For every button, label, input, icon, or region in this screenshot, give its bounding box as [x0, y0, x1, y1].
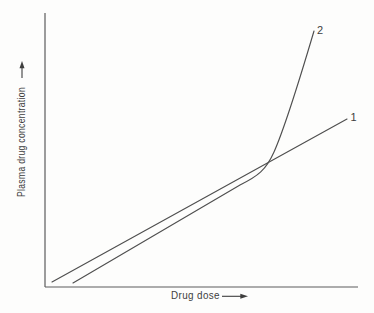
- series-1-line: [52, 119, 347, 282]
- series-2-label: 2: [317, 24, 323, 36]
- x-axis-label: Drug dose: [171, 290, 220, 301]
- right-arrow-icon: [222, 294, 248, 299]
- series-1-label: 1: [351, 111, 357, 123]
- dose-concentration-chart: 1 2 Drug dose Plasma drug concentration: [0, 0, 374, 313]
- up-arrow-icon: [20, 61, 25, 78]
- figure: 1 2 Drug dose Plasma drug concentration: [0, 0, 374, 313]
- y-axis-label: Plasma drug concentration: [16, 87, 27, 197]
